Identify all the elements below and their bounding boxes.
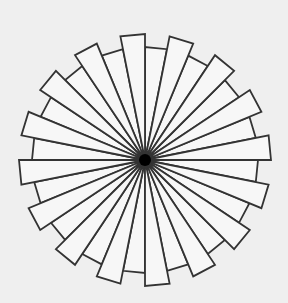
pinwheel-svg (0, 0, 288, 303)
center-hub (139, 154, 151, 166)
pinwheel-figure (0, 0, 288, 303)
